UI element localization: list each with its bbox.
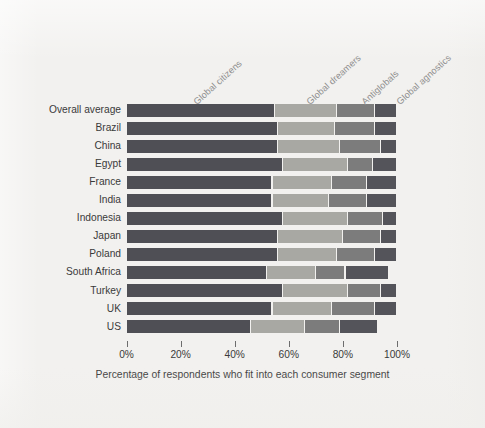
bar-segment[interactable]: [348, 158, 371, 171]
bar-segment[interactable]: [275, 104, 336, 117]
category-label: South Africa: [0, 266, 121, 278]
bar-segment[interactable]: [127, 194, 272, 207]
bar-segment[interactable]: [343, 230, 380, 243]
category-label: China: [0, 140, 121, 152]
bar-segment[interactable]: [316, 266, 345, 279]
bar-segment[interactable]: [267, 266, 315, 279]
bar-segment[interactable]: [127, 158, 283, 171]
bar-segment[interactable]: [381, 284, 396, 297]
category-label: Turkey: [0, 285, 121, 297]
axis-tick: [289, 341, 290, 347]
bar-segment[interactable]: [375, 122, 396, 135]
bar-segment[interactable]: [332, 302, 374, 315]
bar-segment[interactable]: [332, 176, 366, 189]
category-label: Japan: [0, 230, 121, 242]
bar-segment[interactable]: [305, 320, 339, 333]
axis-tick-label: 60%: [269, 349, 309, 360]
category-label: Egypt: [0, 158, 121, 170]
axis-tick-label: 0%: [107, 349, 147, 360]
category-label: Brazil: [0, 122, 121, 134]
bar-segment[interactable]: [346, 266, 388, 279]
bar-segment[interactable]: [283, 158, 347, 171]
axis-tick: [397, 341, 398, 347]
axis-tick-label: 80%: [323, 349, 363, 360]
bar-row[interactable]: [127, 194, 398, 207]
bar-segment[interactable]: [381, 140, 396, 153]
bar-segment[interactable]: [381, 230, 396, 243]
bar-segment[interactable]: [283, 284, 347, 297]
plot-area: Overall averageBrazilChinaEgyptFranceInd…: [0, 0, 485, 428]
bar-segment[interactable]: [278, 230, 342, 243]
bar-segment[interactable]: [127, 230, 277, 243]
bar-segment[interactable]: [340, 140, 379, 153]
bar-segment[interactable]: [367, 194, 396, 207]
bar-row[interactable]: [127, 176, 398, 189]
bar-segment[interactable]: [127, 122, 277, 135]
axis-tick: [181, 341, 182, 347]
category-label: Poland: [0, 248, 121, 260]
bar-segment[interactable]: [127, 248, 277, 261]
bar-segment[interactable]: [348, 212, 382, 225]
axis-tick-label: 100%: [377, 349, 417, 360]
axis-tick-label: 20%: [161, 349, 201, 360]
bar-segment[interactable]: [127, 140, 277, 153]
bar-segment[interactable]: [278, 122, 334, 135]
bar-row[interactable]: [127, 266, 398, 279]
bar-segment[interactable]: [127, 104, 275, 117]
bar-segment[interactable]: [127, 266, 267, 279]
bar-segment[interactable]: [373, 158, 396, 171]
bar-segment[interactable]: [375, 248, 396, 261]
bar-segment[interactable]: [375, 104, 396, 117]
series-annotation: Global dreamers: [305, 52, 363, 106]
bar-segment[interactable]: [329, 194, 366, 207]
bar-row[interactable]: [127, 122, 398, 135]
category-label: US: [0, 321, 121, 333]
axis-tick: [235, 341, 236, 347]
bar-segment[interactable]: [340, 320, 377, 333]
bar-row[interactable]: [127, 140, 398, 153]
axis-tick-label: 40%: [215, 349, 255, 360]
category-label: Overall average: [0, 104, 121, 116]
bar-segment[interactable]: [127, 176, 272, 189]
bar-row[interactable]: [127, 104, 398, 117]
bar-segment[interactable]: [335, 122, 374, 135]
series-annotation: Global agnostics: [395, 52, 453, 106]
axis-tick: [343, 341, 344, 347]
bar-segment[interactable]: [278, 248, 336, 261]
bar-row[interactable]: [127, 302, 398, 315]
axis-tick: [127, 341, 128, 347]
axis-title: Percentage of respondents who fit into e…: [0, 369, 485, 380]
bar-row[interactable]: [127, 320, 398, 333]
bar-segment[interactable]: [127, 320, 250, 333]
bar-segment[interactable]: [273, 194, 329, 207]
bar-segment[interactable]: [127, 212, 283, 225]
category-label: India: [0, 194, 121, 206]
bar-segment[interactable]: [127, 302, 272, 315]
category-label: UK: [0, 303, 121, 315]
bar-segment[interactable]: [367, 176, 396, 189]
bar-segment[interactable]: [348, 284, 379, 297]
bar-segment[interactable]: [278, 140, 339, 153]
bar-row[interactable]: [127, 158, 398, 171]
bar-segment[interactable]: [283, 212, 347, 225]
bar-segment[interactable]: [273, 176, 331, 189]
bar-segment[interactable]: [251, 320, 304, 333]
bar-segment[interactable]: [375, 302, 396, 315]
bar-segment[interactable]: [127, 284, 283, 297]
bar-segment[interactable]: [383, 212, 395, 225]
category-label: France: [0, 176, 121, 188]
bar-segment[interactable]: [337, 248, 374, 261]
category-label: Indonesia: [0, 212, 121, 224]
chart-figure: Overall averageBrazilChinaEgyptFranceInd…: [0, 0, 485, 428]
bar-row[interactable]: [127, 230, 398, 243]
bar-row[interactable]: [127, 284, 398, 297]
bar-row[interactable]: [127, 212, 398, 225]
bar-row[interactable]: [127, 248, 398, 261]
bar-segment[interactable]: [337, 104, 374, 117]
series-annotation: Global citizens: [192, 58, 244, 106]
bar-segment[interactable]: [273, 302, 331, 315]
